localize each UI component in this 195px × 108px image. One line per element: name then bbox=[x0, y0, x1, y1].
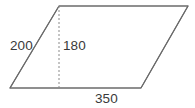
side-length-label: 200 bbox=[10, 39, 33, 53]
parallelogram-outline bbox=[10, 6, 188, 88]
height-label: 180 bbox=[63, 39, 86, 53]
geometry-figure: 200 180 350 bbox=[0, 0, 195, 108]
base-length-label: 350 bbox=[95, 92, 118, 106]
